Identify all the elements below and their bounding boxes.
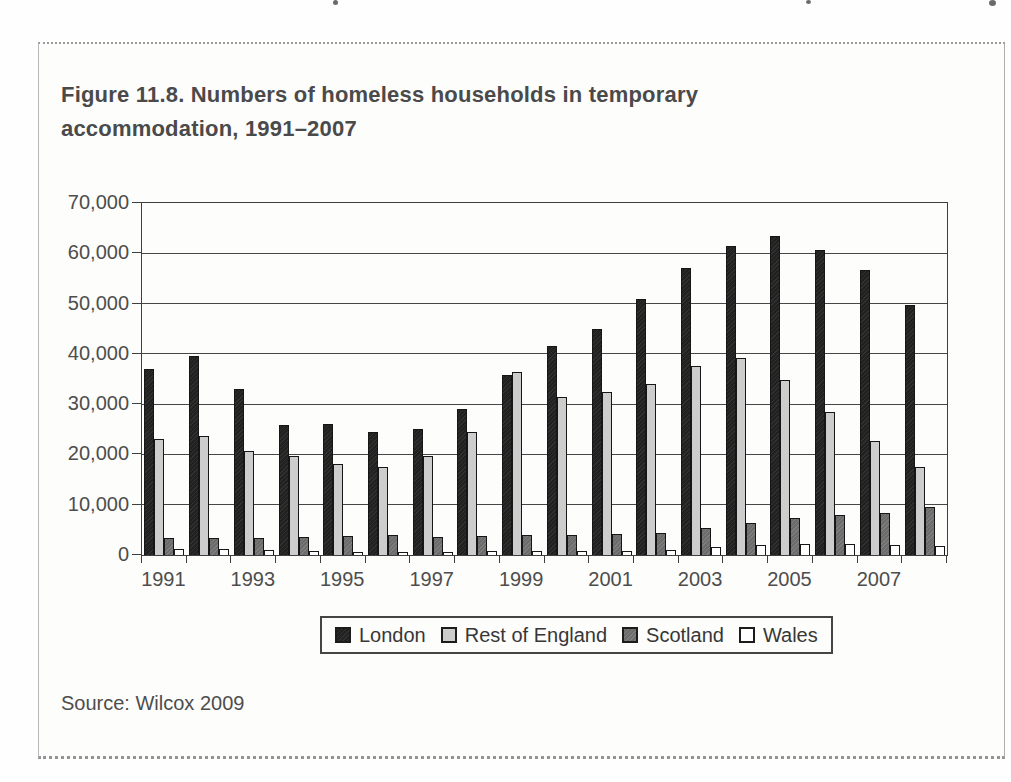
bar-wales-2002 — [666, 550, 676, 555]
bar-group-2004 — [723, 203, 768, 555]
bar-london-2004 — [726, 246, 736, 555]
legend-swatch-scotland — [622, 627, 638, 643]
bar-group-1997 — [410, 203, 455, 555]
bar-group-2008 — [902, 203, 947, 555]
bar-rest-of-england-1996 — [378, 467, 388, 555]
bar-rest-of-england-1993 — [244, 451, 254, 555]
x-tick — [946, 555, 947, 563]
x-axis-ticks — [141, 555, 947, 563]
bar-scotland-2005 — [790, 518, 800, 555]
legend-swatch-rest-of-england — [441, 627, 457, 643]
bar-london-2002 — [636, 299, 646, 555]
plot-area — [141, 202, 948, 556]
bar-rest-of-england-2004 — [736, 358, 746, 555]
bar-rest-of-england-1998 — [467, 432, 477, 555]
bar-rest-of-england-1999 — [512, 372, 522, 555]
bar-group-1992 — [187, 203, 232, 555]
x-tick — [901, 555, 902, 563]
legend-label: Rest of England — [465, 624, 607, 647]
x-tick — [722, 555, 723, 563]
x-tick — [454, 555, 455, 563]
y-tick — [132, 303, 141, 304]
bar-wales-2005 — [800, 544, 810, 555]
bar-scotland-2007 — [880, 513, 890, 555]
bar-london-1996 — [368, 432, 378, 555]
bar-wales-1995 — [353, 552, 363, 555]
bar-scotland-1992 — [209, 538, 219, 555]
bar-rest-of-england-1994 — [289, 456, 299, 555]
bar-london-1991 — [144, 369, 154, 555]
bar-rest-of-england-2001 — [602, 392, 612, 555]
y-axis-labels: 010,00020,00030,00040,00050,00060,00070,… — [39, 202, 129, 554]
bar-rest-of-england-1992 — [199, 436, 209, 555]
bar-london-1999 — [502, 375, 512, 555]
x-axis-label-2003: 2003 — [668, 568, 732, 591]
bar-scotland-1993 — [254, 538, 264, 555]
bar-group-1998 — [455, 203, 500, 555]
x-axis-label-1993: 1993 — [221, 568, 285, 591]
x-tick — [141, 555, 142, 563]
bar-rest-of-england-2006 — [825, 412, 835, 555]
legend-item-wales: Wales — [739, 624, 818, 647]
legend-item-scotland: Scotland — [622, 624, 724, 647]
bar-rest-of-england-2003 — [691, 366, 701, 555]
x-axis-label-1991: 1991 — [131, 568, 195, 591]
x-axis-label-1997: 1997 — [400, 568, 464, 591]
bar-london-2000 — [547, 346, 557, 555]
y-tick — [132, 504, 141, 505]
bar-scotland-2000 — [567, 535, 577, 555]
bar-scotland-1996 — [388, 535, 398, 555]
bar-rest-of-england-2002 — [646, 384, 656, 555]
bar-scotland-1991 — [164, 538, 174, 555]
bar-london-1997 — [413, 429, 423, 555]
y-axis-label: 50,000 — [39, 292, 129, 314]
bar-wales-1991 — [174, 549, 184, 555]
bar-rest-of-england-1995 — [333, 464, 343, 555]
legend-label: Scotland — [646, 624, 724, 647]
bar-scotland-1994 — [299, 537, 309, 555]
y-tick — [132, 202, 141, 203]
bar-scotland-1995 — [343, 536, 353, 555]
x-tick — [678, 555, 679, 563]
bar-wales-2004 — [756, 545, 766, 555]
bar-wales-2006 — [845, 544, 855, 555]
x-tick — [812, 555, 813, 563]
bar-london-2008 — [905, 305, 915, 555]
bar-scotland-2008 — [925, 507, 935, 555]
bar-scotland-2003 — [701, 528, 711, 555]
x-axis-label-1999: 1999 — [489, 568, 553, 591]
bar-group-2003 — [679, 203, 724, 555]
scan-artifact — [806, 0, 811, 4]
x-tick — [320, 555, 321, 563]
bar-group-1995 — [321, 203, 366, 555]
x-tick — [186, 555, 187, 563]
bar-scotland-2002 — [656, 533, 666, 555]
x-tick — [633, 555, 634, 563]
legend-label: Wales — [763, 624, 818, 647]
bar-london-1992 — [189, 356, 199, 555]
bar-wales-1999 — [532, 551, 542, 555]
x-axis-label-2005: 2005 — [757, 568, 821, 591]
bar-wales-1994 — [309, 551, 319, 555]
bar-group-1994 — [276, 203, 321, 555]
bar-london-1994 — [279, 425, 289, 555]
bar-wales-1996 — [398, 552, 408, 555]
bar-wales-1993 — [264, 550, 274, 555]
x-tick — [544, 555, 545, 563]
bars-container — [142, 203, 947, 555]
bar-rest-of-england-2008 — [915, 467, 925, 555]
x-tick — [365, 555, 366, 563]
y-tick — [132, 252, 141, 253]
bar-london-2001 — [592, 329, 602, 555]
bar-scotland-1999 — [522, 535, 532, 555]
y-axis-label: 10,000 — [39, 493, 129, 515]
bar-london-1995 — [323, 424, 333, 555]
x-axis-label-2007: 2007 — [847, 568, 911, 591]
bar-london-2006 — [815, 250, 825, 555]
x-tick — [588, 555, 589, 563]
bar-wales-1992 — [219, 549, 229, 555]
bar-rest-of-england-2007 — [870, 441, 880, 555]
bar-rest-of-england-2000 — [557, 397, 567, 555]
figure-box: Figure 11.8. Numbers of homeless househo… — [38, 42, 1005, 759]
legend-swatch-london — [335, 627, 351, 643]
